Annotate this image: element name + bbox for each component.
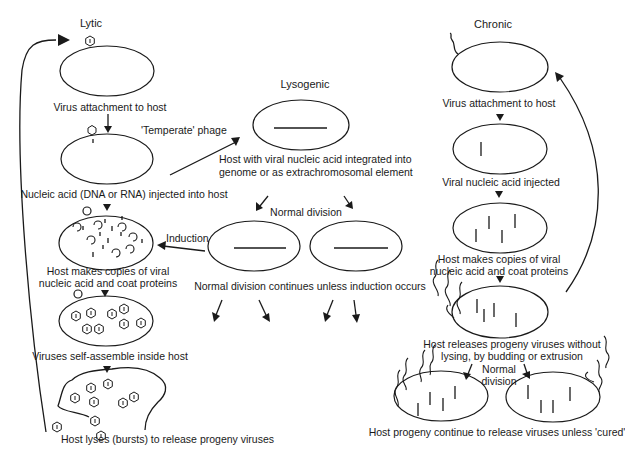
chronic-step-progeny: Host progeny continue to release viruses… bbox=[369, 426, 625, 439]
lytic-step-injection: Nucleic acid (DNA or RNA) injected into … bbox=[20, 188, 227, 201]
assembled-viruses bbox=[72, 304, 146, 334]
virus-icon bbox=[86, 36, 95, 46]
chronic-host-cell-3 bbox=[453, 203, 547, 253]
lytic-step-assembly: Viruses self-assemble inside host bbox=[32, 350, 188, 363]
temperate-phage-label: 'Temperate' phage bbox=[141, 124, 227, 137]
chronic-division-1: Normal bbox=[482, 363, 516, 376]
chronic-host-cell-1 bbox=[452, 42, 548, 92]
header-lysogenic: Lysogenic bbox=[280, 78, 329, 91]
lytic-host-cell-1 bbox=[60, 46, 154, 96]
lysogen-daughter-cell-1 bbox=[208, 221, 300, 271]
chronic-step-release-1: Host releases progeny viruses without bbox=[423, 338, 600, 351]
lytic-cycle bbox=[20, 34, 166, 441]
lysogen-description-1: Host with viral nucleic acid integrated … bbox=[219, 153, 412, 166]
lytic-step-lysis: Host lyses (bursts) to release progeny v… bbox=[61, 433, 274, 446]
lytic-host-cell-2 bbox=[61, 134, 153, 184]
lytic-return-arrow bbox=[20, 40, 56, 432]
lysogen-daughter-cell-2 bbox=[310, 221, 402, 271]
induction-label: Induction bbox=[166, 232, 209, 245]
chronic-step-replication-1: Host makes copies of viral bbox=[438, 253, 561, 266]
chronic-step-attachment: Virus attachment to host bbox=[442, 97, 555, 110]
chronic-step-injection: Viral nucleic acid injected bbox=[442, 176, 560, 189]
replicating-capsids bbox=[73, 216, 142, 257]
lysogen-description-2: genome or as extrachromosomal element bbox=[219, 166, 413, 179]
header-lytic: Lytic bbox=[80, 17, 102, 30]
lysogen-host-cell bbox=[253, 100, 349, 150]
chronic-host-cell-2 bbox=[453, 124, 547, 174]
lytic-step-attachment: Virus attachment to host bbox=[53, 101, 166, 114]
chronic-host-cell-4 bbox=[452, 286, 548, 338]
chronic-return-arrow bbox=[560, 78, 598, 292]
lysogen-normal-division: Normal division bbox=[270, 206, 342, 219]
header-chronic: Chronic bbox=[474, 18, 512, 31]
chronic-daughter-cell-2 bbox=[506, 372, 600, 422]
lytic-step-replication-2: nucleic acid and coat proteins bbox=[39, 277, 177, 290]
lytic-step-replication-1: Host makes copies of viral bbox=[47, 265, 170, 278]
chronic-step-release-2: lysing, by budding or extrusion bbox=[441, 350, 583, 363]
lytic-host-cell-3 bbox=[59, 216, 153, 270]
chronic-step-replication-2: nucleic acid and coat proteins bbox=[430, 265, 568, 278]
lysogen-continues: Normal division continues unless inducti… bbox=[194, 280, 426, 293]
chronic-daughter-cell-1 bbox=[394, 371, 488, 421]
chronic-division-2: division bbox=[481, 375, 516, 388]
